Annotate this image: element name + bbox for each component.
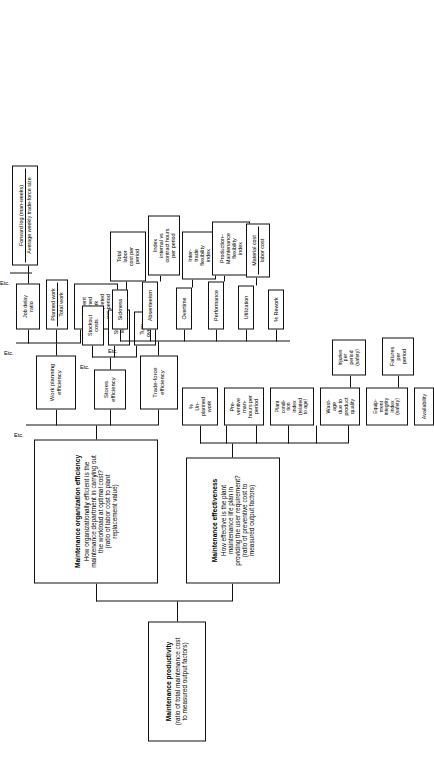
node-trade-force-efficiency[interactable]: Trade-force efficiency xyxy=(140,355,178,409)
node-subtitle: (ratio of total maintenance cost to meas… xyxy=(174,637,188,724)
node-planned-work-over-total-work[interactable]: Planned work Total work xyxy=(46,279,68,329)
node-forward-log-over-trade-force-size[interactable]: Forward log (man-weeks) Average weekly t… xyxy=(12,165,38,265)
connector-root-spine xyxy=(96,600,232,601)
node-label: Inter- trade flexibility index xyxy=(187,245,211,265)
node-label: % Un- planned work xyxy=(188,396,212,415)
connector-leaf-plant-condition xyxy=(256,425,257,443)
connector-leaf-availability xyxy=(348,425,349,443)
node-preventive-manhours-per-period[interactable]: Pre- ventive man- hours per period xyxy=(224,387,264,425)
node-label: Sickness xyxy=(117,298,123,320)
node-label: Stores efficiency xyxy=(103,377,116,401)
connector-effectiveness-spine xyxy=(200,442,348,443)
node-subtitle: How organizationally efficient is the ma… xyxy=(83,455,119,568)
ratio-denominator: Average weekly trade-force size xyxy=(25,168,33,262)
node-label: Work planning efficiency xyxy=(49,363,62,401)
node-performance[interactable]: Performance xyxy=(208,281,224,329)
connector-to-stores xyxy=(110,409,111,425)
connector-leaf-utilization xyxy=(246,329,247,341)
connector-total-labor-cost xyxy=(126,281,127,289)
connector-leaf-overtime xyxy=(184,329,185,341)
node-label: Plant condi- tion index (related to age) xyxy=(275,398,309,415)
node-material-cost-over-labor-cost[interactable]: Material cost labor cost xyxy=(246,223,270,277)
connector-forward-log-in xyxy=(28,265,29,273)
node-equipment-integrity-index[interactable]: Equip- ment integrity index (safety) xyxy=(366,387,408,425)
node-label: Total labor cost per period xyxy=(116,246,140,265)
connector-organization-out xyxy=(96,425,97,439)
node-label: Index internal vs contract hours per per… xyxy=(152,228,176,262)
node-maintenance-effectiveness[interactable]: Maintenance effectiveness How effective … xyxy=(186,457,280,583)
etc-label-tradeforce-leaves: Etc. xyxy=(108,347,118,353)
connector-leaf-performance xyxy=(216,329,217,341)
node-label: Availability xyxy=(421,393,427,418)
node-overtime[interactable]: Overtime xyxy=(176,287,192,329)
connector-leaf-sickness xyxy=(120,329,121,341)
connector-to-organization xyxy=(96,583,97,601)
connector-inter-trade-flex xyxy=(192,279,193,287)
node-work-planning-efficiency[interactable]: Work planning efficiency xyxy=(36,355,76,409)
node-production-maintenance-flexibility-index[interactable]: Production– Maintenance flexibility inde… xyxy=(212,221,250,275)
node-maintenance-organization-efficiency[interactable]: Maintenance organization efficiency How … xyxy=(34,439,158,583)
connector-to-work-planning xyxy=(56,409,57,425)
connector-index-internal-contract xyxy=(160,275,161,281)
node-wastage-product-quality[interactable]: Wast- age due to product quality xyxy=(320,387,360,425)
node-stockout-costs[interactable]: Stockout costs xyxy=(82,305,104,345)
connector-leaf-absenteeism xyxy=(150,329,151,341)
etc-label-planning-leaves: Etc. xyxy=(4,349,14,355)
node-percent-unplanned-work[interactable]: % Un- planned work xyxy=(182,387,218,425)
connector-leaf-unplanned xyxy=(200,425,201,443)
node-stores-efficiency[interactable]: Stores efficiency xyxy=(94,369,126,409)
node-total-labor-cost-per-period[interactable]: Total labor cost per period xyxy=(110,231,146,281)
node-label: Absenteeism xyxy=(147,289,153,320)
node-absenteeism[interactable]: Absenteeism xyxy=(142,281,158,329)
connector-subleaf-failures xyxy=(398,375,399,387)
connector-root-out xyxy=(177,601,178,621)
node-job-delay-ratio[interactable]: Job delay ratio xyxy=(16,283,40,329)
connector-leaf-wastage xyxy=(288,425,289,443)
node-maintenance-productivity[interactable]: Maintenance productivity (ratio of total… xyxy=(148,621,206,741)
connector-effectiveness-out xyxy=(232,443,233,457)
node-title: Maintenance productivity xyxy=(165,641,172,721)
connector-leaf-stockout xyxy=(92,345,93,357)
connector-leaf-planned-total xyxy=(56,329,57,343)
node-inter-trade-flexibility-index[interactable]: Inter- trade flexibility index xyxy=(182,231,216,279)
ratio-denominator: Total work xyxy=(57,282,65,326)
node-label: Utilization xyxy=(243,295,249,318)
ratio-denominator: labor cost xyxy=(258,226,266,274)
node-failures-per-period[interactable]: Failures per period xyxy=(382,337,414,375)
node-sickness[interactable]: Sickness xyxy=(112,289,128,329)
node-availability[interactable]: Availability xyxy=(414,387,434,425)
connector-work-planning-out xyxy=(56,343,57,355)
node-title: Maintenance organization efficiency xyxy=(74,454,81,567)
node-label: Overtime xyxy=(181,297,187,319)
etc-label-organization-children: Etc. xyxy=(14,431,24,437)
connector-to-effectiveness xyxy=(232,583,233,601)
connector-to-tradeforce xyxy=(158,409,159,425)
connector-leaf-rework xyxy=(276,329,277,341)
connector-forward-log xyxy=(28,273,29,283)
node-label: Stockout costs xyxy=(87,315,99,336)
etc-label-stores-leaves: Etc. xyxy=(80,363,90,369)
node-percent-rework[interactable]: % Rework xyxy=(268,289,284,329)
node-utilization[interactable]: Utilization xyxy=(238,285,254,329)
connector-organization-spine xyxy=(26,424,158,425)
connector-leaf-job-delay xyxy=(28,329,29,343)
node-index-internal-vs-contract-hours[interactable]: Index internal vs contract hours per per… xyxy=(148,215,180,275)
node-label: Production– Maintenance flexibility inde… xyxy=(219,233,243,264)
connector-work-planning-spine xyxy=(16,342,80,343)
node-subtitle: How effective is the plant maintenance l… xyxy=(220,475,256,565)
connector-stores-out xyxy=(110,357,111,369)
node-label: Job delay ratio xyxy=(22,294,34,317)
connector-tradeforce-out xyxy=(158,341,159,355)
node-label: Performance xyxy=(213,290,219,321)
node-label: Failures per period xyxy=(389,346,407,365)
node-label: Equip- ment integrity index (safety) xyxy=(373,397,401,415)
node-label: Wast- age due to product quality xyxy=(325,397,355,415)
node-plant-condition-index[interactable]: Plant condi- tion index (related to age) xyxy=(270,387,314,425)
node-label: Pre- ventive man- hours per period xyxy=(229,395,259,418)
connector-leaf-preventive xyxy=(226,425,227,443)
connector-prod-maint-flex xyxy=(224,275,225,281)
node-injuries-per-period[interactable]: Injuries per period (safety) xyxy=(332,339,366,375)
node-title: Maintenance effectiveness xyxy=(211,478,218,562)
etc-label-forward-log: Etc. xyxy=(0,279,10,285)
